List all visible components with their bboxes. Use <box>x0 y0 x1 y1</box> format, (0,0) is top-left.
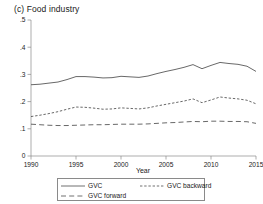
legend-item-gvc-forward: GVC forward <box>61 191 126 201</box>
legend-label-gvc-backward: GVC backward <box>167 182 211 190</box>
x-tick-label: 1995 <box>69 161 84 168</box>
y-tick-label: .1 <box>20 125 26 132</box>
series-line-gvc-forward <box>31 121 256 125</box>
x-tick-label: 2005 <box>159 161 174 168</box>
legend-item-gvc: GVC <box>61 181 102 191</box>
data-series-layer <box>31 62 256 125</box>
y-tick-label: 0 <box>22 152 26 159</box>
x-tick-label: 2015 <box>249 161 263 168</box>
chart-legend: GVC GVC backward GVC forward <box>57 178 205 201</box>
x-axis-label: Year <box>136 167 151 174</box>
legend-key-solid-icon <box>61 182 85 190</box>
x-tick-label: 2000 <box>114 161 129 168</box>
legend-item-gvc-backward: GVC backward <box>140 181 211 191</box>
x-tick-label: 2010 <box>204 161 219 168</box>
legend-key-dashed-icon <box>61 192 85 200</box>
series-line-gvc-backward <box>31 97 256 117</box>
chart-canvas: 0.1.2.3.4.5 199019952000200520102015 Yea… <box>0 0 263 204</box>
y-tick-label: .2 <box>20 98 26 105</box>
y-tick-label: .4 <box>20 44 26 51</box>
y-tick-label: .5 <box>20 16 26 23</box>
x-tick-label: 1990 <box>24 161 39 168</box>
legend-label-gvc: GVC <box>88 182 102 190</box>
series-line-gvc <box>31 62 256 84</box>
legend-label-gvc-forward: GVC forward <box>88 192 126 200</box>
y-axis-ticks: 0.1.2.3.4.5 <box>20 16 31 159</box>
legend-key-dotted-icon <box>140 182 164 190</box>
y-tick-label: .3 <box>20 71 26 78</box>
figure-panel: (c) Food industry 0.1.2.3.4.5 1990199520… <box>0 0 263 204</box>
